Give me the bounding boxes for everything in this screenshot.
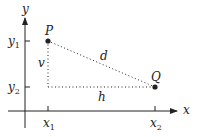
- vertical-label: v: [38, 56, 45, 70]
- distance-segment: [48, 41, 155, 87]
- point-p-label: P: [44, 24, 54, 38]
- distance-label: d: [100, 49, 108, 63]
- y1-label: y1: [7, 34, 20, 50]
- x1-label: x1: [43, 116, 55, 132]
- point-q: [152, 84, 157, 89]
- y-axis-label: y: [21, 2, 29, 16]
- point-q-label: Q: [151, 70, 161, 84]
- distance-diagram: y x y1 y2 x1 x2 d h v P Q: [0, 0, 197, 137]
- x-axis-label: x: [183, 103, 190, 117]
- point-p: [45, 38, 50, 43]
- horizontal-label: h: [98, 90, 106, 104]
- x2-label: x2: [150, 116, 162, 132]
- y2-label: y2: [7, 80, 20, 96]
